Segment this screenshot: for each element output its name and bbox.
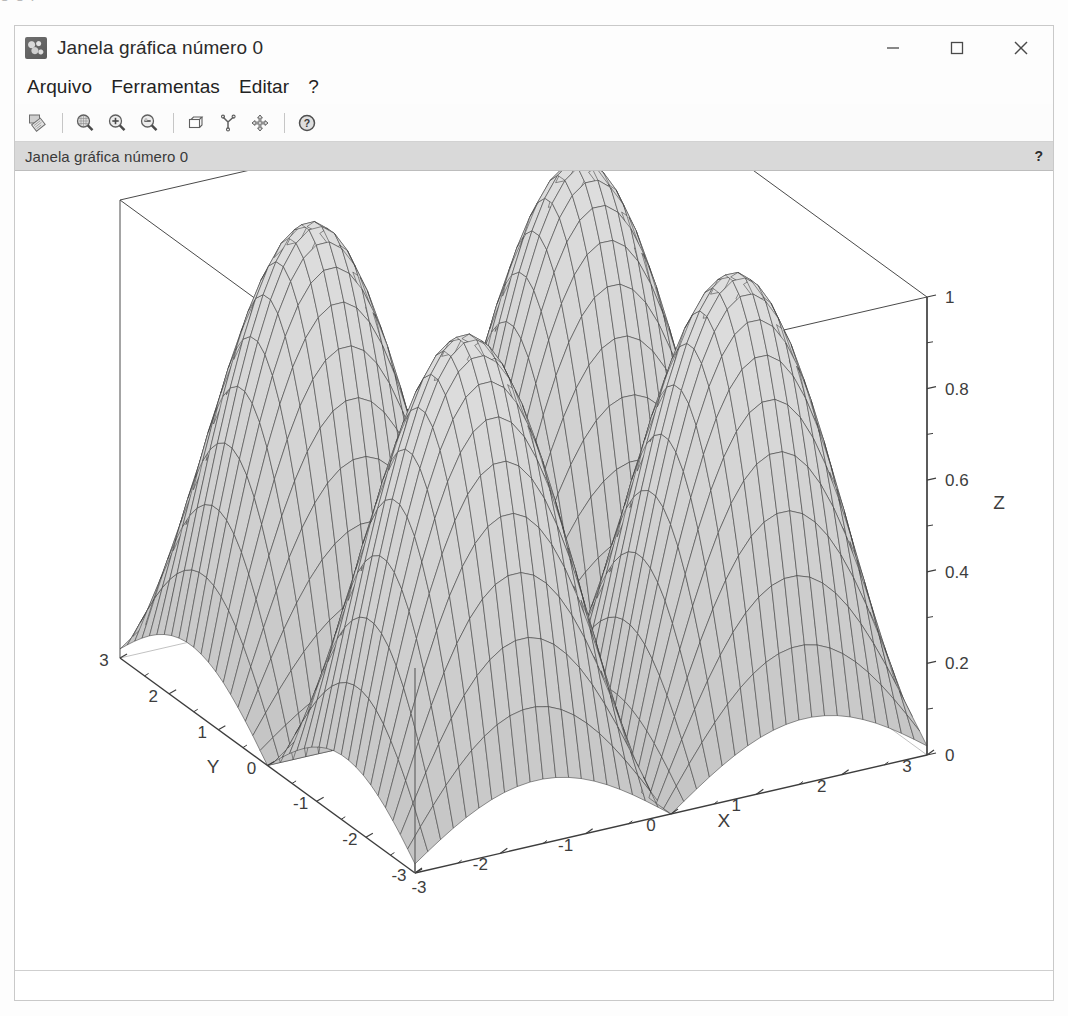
menu-item-help[interactable]: ?: [308, 76, 319, 98]
zoom-box-icon[interactable]: [70, 108, 100, 138]
menu-item-editar[interactable]: Editar: [239, 76, 289, 98]
svg-text:1: 1: [198, 723, 207, 742]
svg-text:3: 3: [902, 757, 911, 776]
svg-text:0.4: 0.4: [945, 563, 969, 582]
page-text-sliver: g g |: [0, 0, 1068, 14]
svg-text:2: 2: [148, 687, 157, 706]
cube-rotate-icon[interactable]: [181, 108, 211, 138]
title-bar: Janela gráfica número 0: [15, 26, 1053, 70]
pan-move-icon[interactable]: [245, 108, 275, 138]
svg-text:-2: -2: [473, 855, 488, 874]
docked-info-label: Janela gráfica número 0: [25, 148, 188, 165]
svg-text:0.6: 0.6: [945, 471, 969, 490]
help-circle-icon[interactable]: ?: [292, 108, 322, 138]
x-axis-label: X: [718, 810, 731, 831]
window-controls: [861, 26, 1053, 70]
zoom-in-icon[interactable]: [102, 108, 132, 138]
toolbar-separator-1: [62, 113, 63, 133]
svg-text:0: 0: [945, 746, 954, 765]
status-bar: [15, 970, 1053, 1000]
y-axis-label: Y: [207, 756, 220, 777]
docked-help-icon[interactable]: ?: [1034, 148, 1043, 164]
svg-text:1: 1: [732, 796, 741, 815]
svg-text:0: 0: [247, 759, 256, 778]
svg-text:-1: -1: [293, 794, 308, 813]
close-button[interactable]: [989, 26, 1053, 70]
window-title: Janela gráfica número 0: [57, 37, 263, 59]
svg-text:-1: -1: [558, 836, 573, 855]
scilab-graphic-window: Janela gráfica número 0: [14, 25, 1054, 1001]
svg-text:0: 0: [646, 816, 655, 835]
docked-info-bar: Janela gráfica número 0 ?: [15, 142, 1053, 171]
minimize-button[interactable]: [861, 26, 925, 70]
svg-text:-3: -3: [411, 878, 426, 897]
svg-text:3: 3: [99, 651, 108, 670]
z-axis-label: Z: [993, 492, 1005, 513]
surface-plot-3d: -2-10123-3X-3-2-10123Y00.20.40.60.81Z: [15, 171, 1053, 989]
plot-canvas[interactable]: -2-10123-3X-3-2-10123Y00.20.40.60.81Z: [15, 171, 1053, 989]
menu-item-arquivo[interactable]: Arquivo: [27, 76, 92, 98]
screenshot-root: g g | Janela gráfica número 0: [0, 0, 1068, 1016]
svg-text:?: ?: [304, 117, 310, 129]
tool-bar: ?: [15, 104, 1053, 142]
toolbar-separator-2: [173, 113, 174, 133]
svg-text:2: 2: [817, 777, 826, 796]
menu-item-ferramentas[interactable]: Ferramentas: [111, 76, 220, 98]
axes-icon[interactable]: [213, 108, 243, 138]
svg-text:0.8: 0.8: [945, 380, 969, 399]
maximize-button[interactable]: [925, 26, 989, 70]
zoom-out-icon[interactable]: [134, 108, 164, 138]
export-icon[interactable]: [23, 108, 53, 138]
svg-text:-3: -3: [391, 866, 406, 885]
scilab-graphic-icon: [25, 37, 47, 59]
svg-text:-2: -2: [342, 830, 357, 849]
svg-text:1: 1: [945, 288, 954, 307]
toolbar-separator-3: [284, 113, 285, 133]
menu-bar: Arquivo Ferramentas Editar ?: [15, 70, 1053, 104]
svg-text:0.2: 0.2: [945, 654, 969, 673]
